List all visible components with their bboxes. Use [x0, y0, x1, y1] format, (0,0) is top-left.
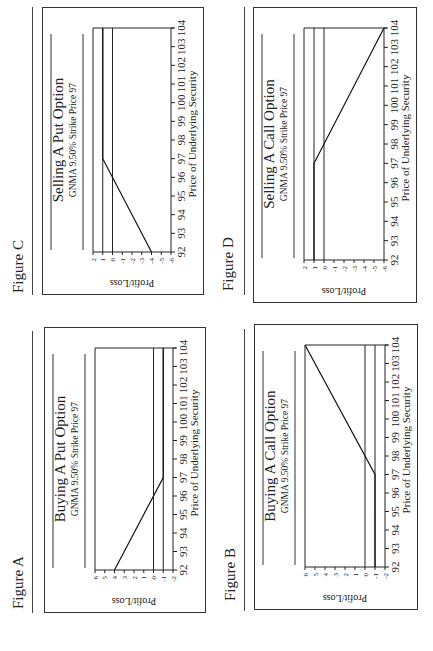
y-tick-label: -1	[160, 576, 168, 582]
y-tick-label: -5	[158, 258, 166, 264]
y-tick-label: 5	[312, 573, 320, 577]
figure-c-rule-top	[32, 7, 33, 295]
x-tick-label: 92	[177, 565, 189, 576]
y-tick-label: 0	[321, 266, 329, 270]
y-tick-label: 4	[322, 573, 330, 577]
y-tick-label: 3	[121, 576, 129, 580]
y-tick-label: 3	[332, 573, 340, 577]
profit-loss-line	[115, 348, 164, 570]
x-tick-label: 104	[177, 339, 189, 356]
y-tick-label: 2	[90, 258, 98, 262]
x-tick-label: 94	[388, 215, 400, 227]
x-axis-label: Price of Underlying Security	[399, 74, 411, 201]
chart-subtitle: GNMA 9.50% Strike Price 97	[68, 83, 78, 198]
y-tick-label: -3	[138, 258, 146, 264]
x-tick-label: 92	[175, 247, 187, 258]
y-tick-label: -1	[372, 573, 380, 579]
figure-b-rule-top	[244, 329, 245, 611]
y-tick-label: -2	[382, 573, 390, 579]
x-tick-label: 103	[175, 38, 187, 55]
y-tick-label: -6	[168, 258, 176, 264]
y-tick-label: 6	[92, 576, 100, 580]
figure-d-rule-top	[244, 7, 245, 295]
figure-b-panel: Buying A Call OptionGNMA 9.50% Strike Pr…	[254, 324, 418, 610]
x-tick-label: 104	[388, 19, 400, 36]
figure-c-chart: Selling A Put OptionGNMA 9.50% Strike Pr…	[43, 8, 203, 294]
y-tick-label: -2	[170, 576, 178, 582]
x-tick-label: 93	[175, 227, 187, 239]
chart-subtitle: GNMA 9.50% Strike Price 97	[280, 399, 290, 514]
y-tick-label: 5	[101, 576, 109, 580]
y-axis-label: Profit/Loss	[110, 278, 155, 289]
figure-a-rule-top	[32, 331, 33, 613]
x-tick-label: 93	[389, 543, 401, 555]
chart-title: Selling A Put Option	[50, 77, 66, 202]
x-tick-label: 94	[175, 209, 187, 221]
y-tick-label: -1	[119, 258, 127, 264]
y-tick-label: -6	[381, 266, 389, 272]
figure-c-panel: Selling A Put OptionGNMA 9.50% Strike Pr…	[42, 7, 204, 295]
y-tick-label: 0	[150, 576, 158, 580]
figure-b-label: Figure B	[222, 548, 239, 601]
x-tick-label: 103	[177, 358, 189, 375]
x-tick-label: 92	[389, 562, 401, 573]
figure-a-chart: Buying A Put OptionGNMA 9.50% Strike Pri…	[45, 328, 205, 612]
chart-title: Buying A Call Option	[262, 390, 278, 522]
y-tick-label: 2	[301, 266, 309, 270]
figure-a-label: Figure A	[10, 556, 27, 609]
x-tick-label: 94	[177, 527, 189, 539]
figure-b-chart: Buying A Call OptionGNMA 9.50% Strike Pr…	[255, 325, 417, 609]
x-tick-label: 93	[388, 235, 400, 247]
y-tick-label: 1	[140, 576, 148, 580]
x-axis-label: Price of Underlying Security	[186, 70, 198, 197]
y-tick-label: 6	[302, 573, 310, 577]
figure-a-panel: Buying A Put OptionGNMA 9.50% Strike Pri…	[44, 327, 206, 613]
figure-c-label: Figure C	[10, 240, 27, 293]
y-tick-label: -3	[351, 266, 359, 272]
y-tick-label: -2	[129, 258, 137, 264]
x-tick-label: 94	[389, 524, 401, 536]
profit-loss-line	[103, 28, 152, 252]
x-tick-label: 102	[388, 58, 400, 75]
y-tick-label: -4	[361, 266, 369, 272]
figure-d-chart: Selling A Call OptionGNMA 9.50% Strike P…	[254, 8, 416, 302]
y-tick-label: 2	[131, 576, 139, 580]
y-tick-label: 2	[342, 573, 350, 577]
x-tick-label: 92	[388, 255, 400, 266]
x-tick-label: 104	[389, 336, 401, 353]
y-tick-label: 4	[111, 576, 119, 580]
x-tick-label: 103	[388, 39, 400, 56]
y-axis-label: Profit/Loss	[323, 593, 368, 604]
x-axis-label: Price of Underlying Security	[400, 386, 412, 513]
x-tick-label: 103	[389, 355, 401, 372]
x-tick-label: 104	[175, 19, 187, 36]
y-tick-label: -4	[148, 258, 156, 264]
y-axis-label: Profit/Loss	[322, 286, 367, 297]
y-tick-label: -1	[331, 266, 339, 272]
chart-subtitle: GNMA 9.50% Strike Price 97	[279, 87, 289, 202]
y-tick-label: 1	[311, 266, 319, 270]
y-tick-label: -5	[371, 266, 379, 272]
x-axis-label: Price of Underlying Security	[188, 389, 200, 516]
y-tick-label: 0	[109, 258, 117, 262]
figure-d-label: Figure D	[220, 237, 237, 291]
y-axis-label: Profit/Loss	[112, 596, 157, 607]
x-tick-label: 93	[177, 546, 189, 558]
y-tick-label: 0	[362, 573, 370, 577]
chart-title: Buying A Put Option	[52, 395, 68, 522]
y-tick-label: -2	[341, 266, 349, 272]
chart-title: Selling A Call Option	[261, 79, 277, 209]
rotated-page: Figure A Buying A Put OptionGNMA 9.50% S…	[0, 0, 433, 651]
y-tick-label: 1	[99, 258, 107, 262]
y-tick-label: 1	[352, 573, 360, 577]
figure-d-panel: Selling A Call OptionGNMA 9.50% Strike P…	[253, 7, 417, 303]
chart-subtitle: GNMA 9.50% Strike Price 97	[70, 402, 80, 517]
